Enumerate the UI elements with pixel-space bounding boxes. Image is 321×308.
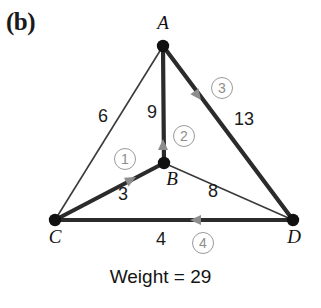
vertex-label-A: A: [150, 12, 176, 34]
edge-weight-CB: 3: [108, 184, 138, 205]
figure-panel: (b) A B C D 6 9 13 3 8 4: [0, 0, 321, 308]
vertex-label-D: D: [281, 226, 307, 248]
vertex-label-C: C: [42, 226, 68, 248]
graph-canvas: [0, 0, 321, 308]
edge-weight-CA: 6: [88, 106, 118, 127]
vertex-node-C: [49, 214, 61, 226]
vertex-node-D: [287, 214, 299, 226]
vertex-label-B: B: [159, 168, 185, 190]
step-number-4: 4: [192, 232, 214, 254]
edge-weight-BA: 9: [137, 102, 167, 123]
arrow-D-to-C: [190, 215, 201, 225]
arrow-B-to-A: [158, 139, 168, 150]
edge-weight-AD: 13: [225, 109, 263, 130]
step-number-2: 2: [173, 125, 195, 147]
step-number-1: 1: [114, 148, 136, 170]
step-number-3: 3: [211, 77, 233, 99]
vertex-node-A: [157, 40, 169, 52]
edge-weight-DC: 4: [146, 229, 176, 250]
total-weight-caption: Weight = 29: [0, 266, 321, 288]
edge-weight-BD: 8: [198, 181, 228, 202]
